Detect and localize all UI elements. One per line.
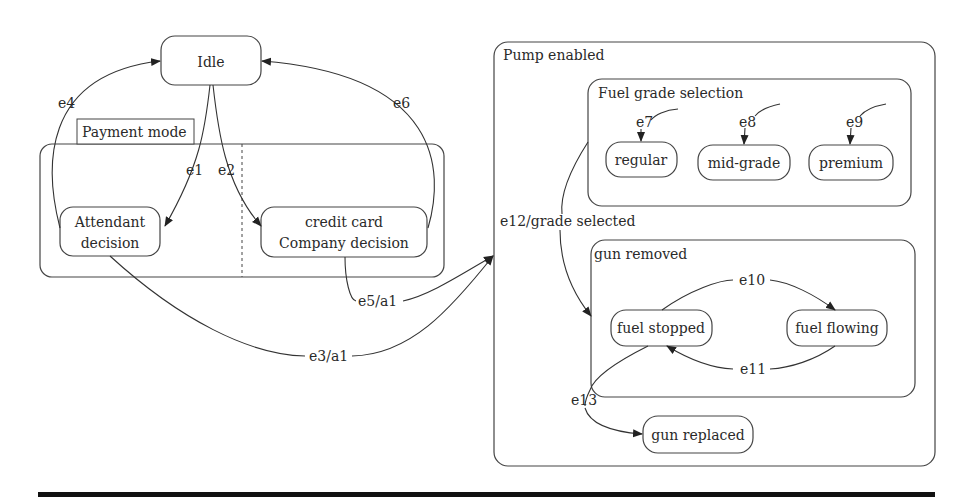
- state-premium: premium: [809, 145, 893, 180]
- svg-text:Idle: Idle: [197, 54, 224, 70]
- svg-text:e4: e4: [58, 95, 75, 111]
- svg-text:e8: e8: [739, 114, 756, 130]
- bottom-rule: [38, 492, 935, 497]
- svg-text:e12/grade selected: e12/grade selected: [500, 213, 635, 229]
- svg-text:fuel stopped: fuel stopped: [617, 320, 705, 336]
- svg-text:regular: regular: [615, 152, 668, 168]
- svg-text:e13: e13: [571, 392, 597, 408]
- svg-text:Fuel grade selection: Fuel grade selection: [598, 85, 743, 101]
- svg-text:e2: e2: [218, 162, 235, 178]
- svg-text:Attendant: Attendant: [74, 214, 146, 230]
- svg-text:premium: premium: [819, 155, 883, 171]
- svg-text:credit card: credit card: [305, 214, 383, 230]
- svg-text:decision: decision: [81, 235, 140, 251]
- state-regular: regular: [606, 142, 677, 177]
- svg-text:fuel flowing: fuel flowing: [795, 320, 879, 336]
- svg-text:e5/a1: e5/a1: [358, 293, 397, 309]
- state-credit-card-company-decision: credit card Company decision: [261, 207, 427, 257]
- svg-text:Company decision: Company decision: [279, 235, 409, 251]
- svg-text:e11: e11: [740, 361, 766, 377]
- svg-text:gun removed: gun removed: [594, 246, 687, 262]
- svg-text:e10: e10: [739, 272, 765, 288]
- state-mid-grade: mid-grade: [698, 145, 790, 180]
- svg-text:Pump enabled: Pump enabled: [503, 47, 604, 63]
- svg-text:gun replaced: gun replaced: [651, 427, 744, 443]
- svg-text:e7: e7: [636, 114, 653, 130]
- svg-text:e3/a1: e3/a1: [309, 348, 348, 364]
- svg-text:e6: e6: [393, 95, 410, 111]
- state-fuel-flowing: fuel flowing: [787, 310, 887, 346]
- svg-text:e9: e9: [846, 114, 863, 130]
- state-attendant-decision: Attendant decision: [60, 207, 160, 256]
- state-fuel-stopped: fuel stopped: [611, 310, 712, 346]
- state-idle: Idle: [161, 36, 261, 85]
- svg-text:mid-grade: mid-grade: [708, 155, 781, 171]
- state-gun-replaced: gun replaced: [643, 416, 753, 453]
- svg-text:e1: e1: [186, 162, 203, 178]
- statechart-diagram: Idle Payment mode Attendant decision cre…: [0, 0, 968, 503]
- svg-text:Payment mode: Payment mode: [82, 124, 187, 140]
